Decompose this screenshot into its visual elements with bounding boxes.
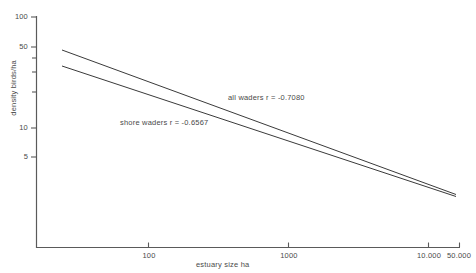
chart-figure: 100 50 10 5 100 1000 10.000 50.000 estua… [0, 0, 476, 273]
chart-plot-area [0, 0, 476, 273]
annotation-shore-waders: shore waders r = -0.6567 [120, 118, 208, 127]
x-axis-title: estuary size ha [196, 260, 249, 269]
annotation-all-waders: all waders r = -0.7080 [228, 93, 305, 102]
series-line-shore-waders [62, 66, 456, 197]
x-tick-label-1000: 1000 [268, 251, 310, 260]
y-tick-label-50: 50 [6, 42, 28, 51]
y-tick-label-100: 100 [6, 12, 28, 21]
x-axis-ticks [149, 243, 460, 248]
y-axis-ticks [31, 17, 37, 157]
y-axis-title: density birds/ha [9, 60, 18, 116]
x-tick-label-50000: 50.000 [436, 251, 476, 260]
x-tick-label-100: 100 [128, 251, 170, 260]
y-axis-title-wrap: density birds/ha [0, 60, 12, 170]
